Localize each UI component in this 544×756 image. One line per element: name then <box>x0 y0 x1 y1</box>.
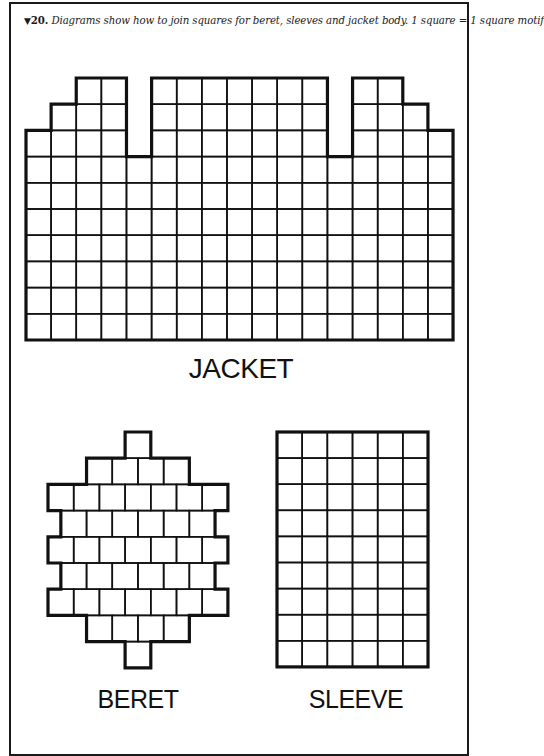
beret-square <box>125 642 151 668</box>
jacket-square <box>202 78 227 104</box>
jacket-square <box>202 288 227 314</box>
sleeve-square <box>378 563 403 589</box>
jacket-square <box>403 157 428 183</box>
jacket-square <box>51 183 76 209</box>
jacket-square <box>428 261 453 287</box>
jacket-square <box>428 235 453 261</box>
beret-square <box>125 484 151 510</box>
jacket-square <box>403 314 428 340</box>
jacket-square <box>126 314 151 340</box>
beret-square <box>164 615 190 641</box>
jacket-square <box>403 261 428 287</box>
jacket-square <box>327 209 352 235</box>
jacket-square <box>378 183 403 209</box>
jacket-square <box>152 130 177 156</box>
sleeve-grid <box>277 432 428 667</box>
jacket-square <box>378 130 403 156</box>
jacket-square <box>428 314 453 340</box>
jacket-square <box>152 157 177 183</box>
jacket-square <box>101 78 126 104</box>
beret-square <box>112 615 138 641</box>
jacket-square <box>152 183 177 209</box>
beret-square <box>74 484 100 510</box>
jacket-square <box>378 209 403 235</box>
jacket-square <box>101 104 126 130</box>
jacket-square <box>353 183 378 209</box>
jacket-square <box>76 183 101 209</box>
jacket-square <box>76 235 101 261</box>
sleeve-square <box>302 484 327 510</box>
sleeve-square <box>327 432 352 458</box>
sleeve-square <box>353 510 378 536</box>
jacket-square <box>428 157 453 183</box>
beret-square <box>48 484 74 510</box>
sleeve-square <box>302 615 327 641</box>
sleeve-square <box>353 432 378 458</box>
jacket-square <box>378 235 403 261</box>
jacket-square <box>177 235 202 261</box>
jacket-square <box>227 130 252 156</box>
sleeve-square <box>403 510 428 536</box>
jacket-square <box>126 235 151 261</box>
sleeve-square <box>353 458 378 484</box>
jacket-square <box>403 104 428 130</box>
beret-square <box>125 537 151 563</box>
jacket-square <box>353 78 378 104</box>
sleeve-square <box>302 563 327 589</box>
jacket-square <box>403 209 428 235</box>
beret-square <box>151 537 177 563</box>
jacket-square <box>26 183 51 209</box>
jacket-square <box>76 157 101 183</box>
sleeve-label: SLEEVE <box>256 687 456 712</box>
sleeve-square <box>302 432 327 458</box>
jacket-square <box>378 288 403 314</box>
sleeve-square <box>378 510 403 536</box>
beret-square <box>125 589 151 615</box>
sleeve-square <box>302 589 327 615</box>
jacket-square <box>353 235 378 261</box>
jacket-square <box>101 209 126 235</box>
sleeve-square <box>327 484 352 510</box>
beret-square <box>61 563 87 589</box>
jacket-square <box>101 157 126 183</box>
jacket-square <box>202 104 227 130</box>
sleeve-square <box>277 510 302 536</box>
jacket-square <box>302 314 327 340</box>
beret-square <box>99 484 125 510</box>
jacket-label: JACKET <box>141 355 341 383</box>
sleeve-square <box>353 641 378 667</box>
jacket-square <box>353 104 378 130</box>
beret-square <box>138 458 164 484</box>
beret-square <box>177 589 203 615</box>
jacket-square <box>252 209 277 235</box>
jacket-square <box>277 261 302 287</box>
jacket-square <box>252 78 277 104</box>
sleeve-square <box>327 641 352 667</box>
jacket-square <box>177 261 202 287</box>
jacket-square <box>51 314 76 340</box>
jacket-square <box>227 183 252 209</box>
jacket-square <box>302 104 327 130</box>
jacket-square <box>353 209 378 235</box>
jacket-square <box>403 288 428 314</box>
beret-square <box>87 563 113 589</box>
beret-square <box>164 563 190 589</box>
sleeve-square <box>327 458 352 484</box>
jacket-square <box>26 209 51 235</box>
jacket-square <box>302 235 327 261</box>
jacket-square <box>202 261 227 287</box>
beret-square <box>74 537 100 563</box>
jacket-square <box>177 288 202 314</box>
jacket-square <box>428 288 453 314</box>
beret-square <box>164 511 190 537</box>
beret-square <box>151 484 177 510</box>
beret-square <box>177 537 203 563</box>
sleeve-square <box>378 641 403 667</box>
sleeve-square <box>277 432 302 458</box>
jacket-square <box>252 235 277 261</box>
jacket-square <box>378 314 403 340</box>
jacket-square <box>26 288 51 314</box>
jacket-square <box>101 288 126 314</box>
jacket-square <box>152 314 177 340</box>
jacket-square <box>152 78 177 104</box>
